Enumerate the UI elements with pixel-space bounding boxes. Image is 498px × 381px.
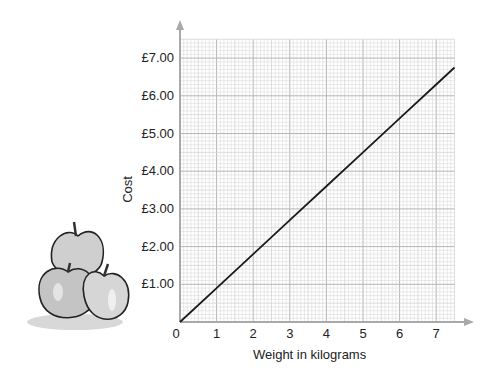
chart-grid — [180, 39, 455, 322]
y-tick-label: £2.00 — [124, 239, 174, 254]
y-axis-label: Cost — [120, 176, 135, 203]
y-tick-label: £7.00 — [124, 50, 174, 65]
x-tick-label: 5 — [353, 326, 373, 341]
x-tick-label: 0 — [166, 326, 186, 341]
x-tick-label: 6 — [390, 326, 410, 341]
x-tick-label: 3 — [280, 326, 300, 341]
x-tick-label: 4 — [316, 326, 336, 341]
x-tick-label: 1 — [207, 326, 227, 341]
apples-illustration — [27, 222, 129, 330]
x-axis-label: Weight in kilograms — [253, 347, 366, 362]
y-tick-label: £6.00 — [124, 88, 174, 103]
axes — [176, 20, 474, 326]
y-axis-arrow-icon — [176, 20, 184, 30]
x-tick-label: 7 — [426, 326, 446, 341]
y-tick-label: £3.00 — [124, 201, 174, 216]
y-tick-label: £5.00 — [124, 126, 174, 141]
x-tick-label: 2 — [243, 326, 263, 341]
y-tick-label: £1.00 — [124, 276, 174, 291]
cost-weight-chart — [0, 0, 498, 381]
x-axis-arrow-icon — [464, 318, 474, 326]
